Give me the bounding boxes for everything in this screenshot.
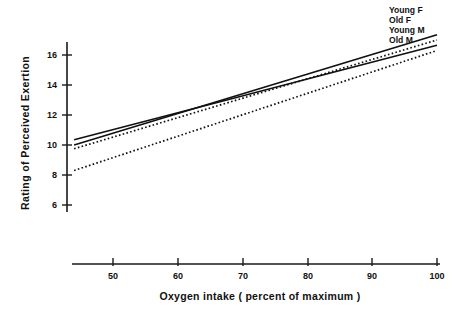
y-axis-title-text: Rating of Perceived Exertion xyxy=(19,56,31,210)
series-line-young-f xyxy=(74,35,437,145)
series-line-old-f xyxy=(74,40,437,149)
x-tick-label-60: 60 xyxy=(173,271,183,281)
y-tick-label-8: 8 xyxy=(52,170,57,180)
legend-label-old-f: Old F xyxy=(389,15,411,25)
x-tick-label-50: 50 xyxy=(108,271,118,281)
series-line-old-m xyxy=(74,51,437,171)
series-line-young-m xyxy=(74,45,437,140)
legend: Young F Old F Young M Old M xyxy=(389,5,425,45)
series-lines xyxy=(74,35,437,171)
x-axis-title: Oxygen intake ( percent of maximum ) xyxy=(60,286,460,304)
y-tick-label-16: 16 xyxy=(47,50,57,60)
y-axis-title: Rating of Perceived Exertion xyxy=(14,28,36,238)
y-tick-label-14: 14 xyxy=(47,80,57,90)
figure: 16 14 12 10 8 6 50 60 70 80 90 100 xyxy=(0,0,466,314)
x-axis-title-text: Oxygen intake ( percent of maximum ) xyxy=(159,290,360,302)
x-tick-label-90: 90 xyxy=(367,271,377,281)
x-tick-label-100: 100 xyxy=(429,271,444,281)
x-tick-label-80: 80 xyxy=(303,271,313,281)
y-axis-tick-labels: 16 14 12 10 8 6 xyxy=(47,50,57,210)
y-tick-label-10: 10 xyxy=(47,140,57,150)
x-axis-tick-labels: 50 60 70 80 90 100 xyxy=(108,271,445,281)
y-tick-label-12: 12 xyxy=(47,110,57,120)
legend-label-old-m: Old M xyxy=(389,35,413,45)
chart-canvas: 16 14 12 10 8 6 50 60 70 80 90 100 xyxy=(0,0,466,314)
y-tick-label-6: 6 xyxy=(52,200,57,210)
legend-label-young-m: Young M xyxy=(389,25,425,35)
x-tick-label-70: 70 xyxy=(238,271,248,281)
legend-label-young-f: Young F xyxy=(389,5,423,15)
